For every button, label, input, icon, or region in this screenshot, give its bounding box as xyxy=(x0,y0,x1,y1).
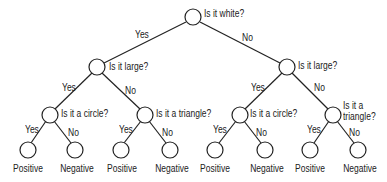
node-RL-circle xyxy=(232,107,248,123)
edge-label-LR-leaf3: No xyxy=(162,127,173,138)
edge-label-LR-leaf2: Yes xyxy=(119,124,133,135)
node-root-question: Is it white? xyxy=(204,8,244,19)
leaf-circle-1 xyxy=(67,142,83,158)
leaf-circle-0 xyxy=(20,142,36,158)
edge-label-root-R: No xyxy=(242,32,253,43)
edge-label-R-RR: No xyxy=(314,82,325,93)
leaf-label-1: Negative xyxy=(60,163,94,174)
decision-tree-diagram: Is it white? Is it large? Is it large? I… xyxy=(0,0,387,182)
node-LL-question: Is it a circle? xyxy=(61,108,108,119)
leaf-label-4: Positive xyxy=(200,163,230,174)
edge-label-LL-leaf1: No xyxy=(68,127,79,138)
node-RL-question: Is it a circle? xyxy=(250,108,297,119)
edge-root-R xyxy=(200,22,280,63)
node-L-question: Is it large? xyxy=(109,61,148,72)
node-LR-circle xyxy=(137,107,153,123)
leaf-label-7: Negative xyxy=(343,163,377,174)
edge-label-L-LL: Yes xyxy=(62,82,76,93)
leaf-label-2: Positive xyxy=(107,163,137,174)
leaf-label-0: Positive xyxy=(13,163,43,174)
node-root-circle xyxy=(185,9,201,25)
edge-label-root-L: Yes xyxy=(135,29,149,40)
edge-label-R-RL: Yes xyxy=(251,82,265,93)
edge-label-RL-leaf5: No xyxy=(256,127,267,138)
edge-label-LL-leaf0: Yes xyxy=(25,124,39,135)
tree-graphics xyxy=(0,0,387,182)
node-R-circle xyxy=(279,59,295,75)
leaf-circle-7 xyxy=(350,142,366,158)
node-RR-question-line1: Is it a xyxy=(343,100,363,111)
leaf-label-5: Negative xyxy=(250,163,284,174)
node-LL-circle xyxy=(42,107,58,123)
leaf-label-3: Negative xyxy=(155,163,189,174)
edge-label-L-LR: No xyxy=(125,85,136,96)
leaf-circle-5 xyxy=(257,142,273,158)
node-RR-circle xyxy=(325,107,341,123)
edge-label-RL-leaf4: Yes xyxy=(213,124,227,135)
edge-label-RR-leaf6: Yes xyxy=(307,124,321,135)
edge-label-RR-leaf7: No xyxy=(349,127,360,138)
leaf-circle-2 xyxy=(113,142,129,158)
leaf-circle-3 xyxy=(162,142,178,158)
node-LR-question: Is it a triangle? xyxy=(156,108,211,119)
leaf-circle-6 xyxy=(302,142,318,158)
leaf-circle-4 xyxy=(207,142,223,158)
node-R-question: Is it large? xyxy=(298,60,337,71)
node-L-circle xyxy=(89,59,105,75)
leaf-label-6: Positive xyxy=(295,163,325,174)
node-RR-question-line2: triangle? xyxy=(343,111,376,122)
